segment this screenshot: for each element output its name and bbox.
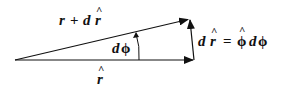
label-r-plus-dr: r + d r ^ [59,4,102,28]
svg-text:^: ^ [96,4,102,16]
angle-arc [136,34,139,61]
svg-text:d: d [83,12,91,28]
svg-text:d: d [249,33,257,49]
svg-text:r: r [59,12,65,28]
svg-text:=: = [223,33,232,49]
svg-text:ϕ: ϕ [121,40,130,56]
polar-unit-vector-diagram: r + d r ^ d ϕ r ^ d r ^ = ϕ ^ d ϕ [0,0,283,90]
svg-text:+: + [70,12,79,28]
svg-text:ϕ: ϕ [258,33,267,49]
label-r-hat: r ^ [97,63,104,87]
svg-text:d: d [112,40,120,56]
svg-text:^: ^ [239,24,245,36]
label-equation: d r ^ = ϕ ^ d ϕ [198,24,267,49]
r-plus-dr-vector [15,20,188,61]
label-d-phi: d ϕ [112,40,130,56]
angle-arc-arrowhead-icon [133,32,139,38]
svg-text:^: ^ [98,63,104,75]
svg-text:^: ^ [211,25,217,37]
d-r-hat-vector [190,20,194,60]
svg-text:d: d [198,33,206,49]
